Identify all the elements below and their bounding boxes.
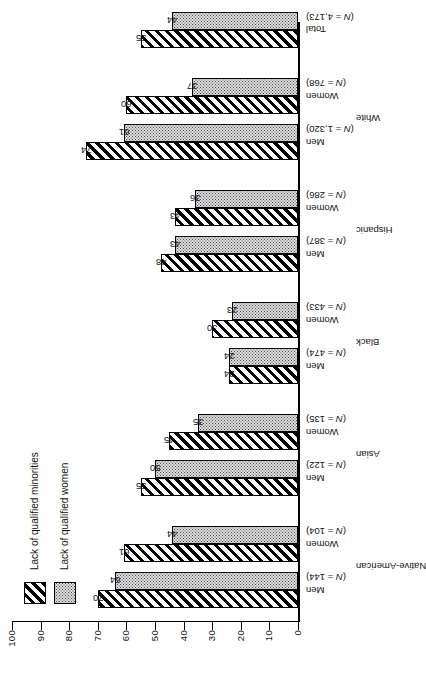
bar-minorities — [169, 432, 298, 450]
axis-tick — [241, 622, 242, 630]
category-baseline — [298, 22, 300, 622]
bar-value-label: 24 — [224, 369, 235, 379]
bar-value-label: 44 — [167, 529, 178, 539]
column-sex-label: Men — [306, 362, 324, 372]
bar-minorities — [124, 544, 298, 562]
group-name-label: White — [356, 114, 380, 124]
bar-women — [229, 348, 298, 366]
bar-women — [155, 460, 298, 478]
column-sex-label: Women — [306, 316, 339, 326]
axis-tick — [41, 622, 42, 630]
bar-value-label: 37 — [187, 81, 198, 91]
legend-label: Lack of qualified minorities — [29, 452, 40, 570]
bar-minorities — [175, 208, 298, 226]
axis-tick — [98, 622, 99, 630]
axis-tick-label: 30 — [206, 630, 217, 658]
bar-value-label: 61 — [118, 547, 129, 557]
bar-minorities — [212, 320, 298, 338]
bar-minorities — [126, 96, 298, 114]
column-n-label: (N = 387) — [306, 237, 346, 247]
column-n-label: (N = 286) — [306, 191, 346, 201]
column-sex-label: Women — [306, 428, 339, 438]
legend-swatch-minorities-icon — [24, 582, 46, 604]
column-sex-label: Men — [306, 250, 324, 260]
axis-tick-label: 10 — [263, 630, 274, 658]
bar-value-label: 61 — [118, 127, 129, 137]
column-sex-label: Women — [306, 204, 339, 214]
bar-value-label: 74 — [81, 145, 92, 155]
axis-tick — [155, 622, 156, 630]
bar-women — [198, 414, 298, 432]
axis-tick — [12, 622, 13, 630]
column-sex-label: Women — [306, 92, 339, 102]
bar-minorities — [141, 478, 298, 496]
axis-tick-label: 40 — [178, 630, 189, 658]
legend-label: Lack of qualified women — [59, 463, 70, 570]
axis-tick-label: 50 — [149, 630, 160, 658]
bar-minorities — [229, 366, 298, 384]
axis-tick-label: 60 — [120, 630, 131, 658]
column-n-label: (N = 144) — [306, 573, 346, 583]
bar-value-label: 35 — [193, 417, 204, 427]
axis-tick — [184, 622, 185, 630]
bar-women — [175, 236, 298, 254]
column-n-label: (N = 4,173) — [306, 13, 354, 23]
group-name-label: Hispanic — [356, 226, 392, 236]
column-n-label: (N = 135) — [306, 415, 346, 425]
bar-value-label: 44 — [167, 15, 178, 25]
axis-tick-label: 90 — [35, 630, 46, 658]
axis-tick-label: 0 — [292, 630, 303, 658]
axis-tick — [126, 622, 127, 630]
bar-minorities — [161, 254, 298, 272]
bar-value-label: 70 — [93, 593, 104, 603]
bar-minorities — [98, 590, 298, 608]
column-n-label: (N = 122) — [306, 461, 346, 471]
bar-value-label: 60 — [121, 99, 132, 109]
bar-women — [115, 572, 298, 590]
column-sex-label: Men — [306, 586, 324, 596]
bar-women — [192, 78, 298, 96]
bar-value-label: 64 — [110, 575, 121, 585]
bar-women — [195, 190, 298, 208]
axis-tick — [298, 622, 299, 630]
bar-women — [172, 526, 298, 544]
axis-tick-label: 100 — [6, 630, 17, 658]
axis-tick — [212, 622, 213, 630]
bar-value-label: 36 — [190, 193, 201, 203]
bar-women — [172, 12, 298, 30]
bar-women — [124, 124, 298, 142]
group-name-label: Total — [306, 25, 326, 35]
bar-minorities — [141, 30, 298, 48]
axis-tick-label: 80 — [63, 630, 74, 658]
axis-tick — [269, 622, 270, 630]
column-sex-label: Men — [306, 474, 324, 484]
bar-value-label: 55 — [136, 481, 147, 491]
group-name-label: Native-American — [356, 562, 426, 572]
column-n-label: (N = 433) — [306, 303, 346, 313]
bar-value-label: 43 — [170, 211, 181, 221]
column-n-label: (N = 768) — [306, 79, 346, 89]
column-sex-label: Men — [306, 138, 324, 148]
bar-value-label: 50 — [150, 463, 161, 473]
group-name-label: Asian — [356, 450, 380, 460]
axis-tick-label: 70 — [92, 630, 103, 658]
bar-value-label: 55 — [136, 33, 147, 43]
group-name-label: Black — [356, 338, 379, 348]
column-n-label: (N = 474) — [306, 349, 346, 359]
bar-value-label: 24 — [224, 351, 235, 361]
bar-value-label: 48 — [156, 257, 167, 267]
legend-swatch-women-icon — [54, 582, 76, 604]
column-n-label: (N = 104) — [306, 527, 346, 537]
bar-value-label: 43 — [170, 239, 181, 249]
axis-tick — [69, 622, 70, 630]
column-sex-label: Women — [306, 540, 339, 550]
bar-value-label: 45 — [164, 435, 175, 445]
bar-minorities — [86, 142, 298, 160]
column-n-label: (N = 1,320) — [306, 125, 354, 135]
bar-women — [232, 302, 298, 320]
axis-tick-label: 20 — [235, 630, 246, 658]
bar-value-label: 30 — [207, 323, 218, 333]
bar-value-label: 23 — [227, 305, 238, 315]
